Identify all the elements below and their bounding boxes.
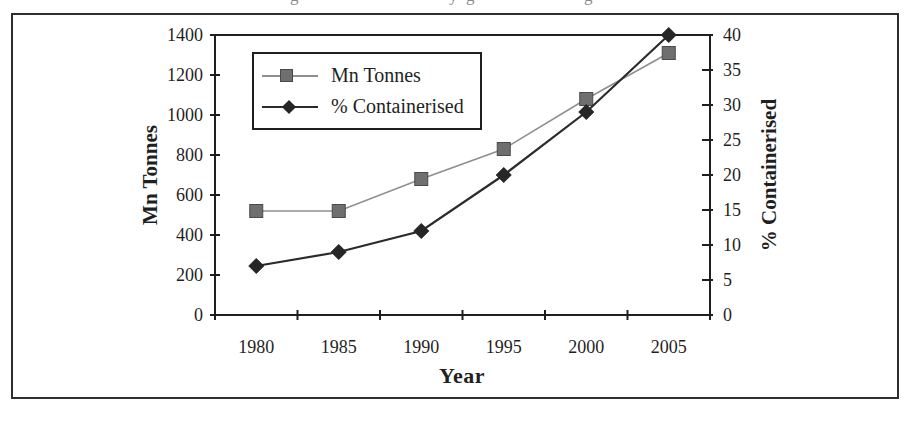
mn-tonnes-square-marker-icon (280, 69, 293, 82)
x-axis-tick-label: 1980 (238, 337, 274, 357)
scanned-figure: g y g g 02004006008001000120014000510152… (0, 0, 912, 421)
left-axis-tick-label: 1400 (167, 25, 203, 45)
x-axis-tick-label: 2005 (651, 337, 687, 357)
left-axis-tick-label: 1000 (167, 105, 203, 125)
legend: Mn Tonnes % Containerised (252, 52, 482, 130)
right-axis-tick-label: 10 (723, 235, 741, 255)
left-axis-tick-label: 800 (176, 145, 203, 165)
cropped-caption-strip: g y g g (0, 0, 912, 6)
data-point-square (250, 205, 263, 218)
legend-item-mn-tonnes: Mn Tonnes (262, 63, 480, 89)
containerised-diamond-marker-icon (282, 99, 296, 113)
data-point-square (497, 143, 510, 156)
left-axis-title: Mn Tonnes (137, 65, 163, 285)
right-axis-tick-label: 25 (723, 130, 741, 150)
mn-tonnes-swatch (262, 68, 318, 84)
data-point-square (415, 173, 428, 186)
left-axis-tick-label: 600 (176, 185, 203, 205)
chart-frame: 0200400600800100012001400051015202530354… (11, 13, 899, 399)
cropped-text-descender: g (466, 0, 475, 4)
right-axis-tick-label: 0 (723, 305, 732, 325)
containerised-swatch (262, 99, 318, 115)
right-axis-tick-label: 40 (723, 25, 741, 45)
left-axis-tick-label: 400 (176, 225, 203, 245)
left-axis: 0200400600800100012001400 (167, 25, 220, 325)
x-axis-tick-label: 1995 (486, 337, 522, 357)
x-axis-tick-label: 1985 (321, 337, 357, 357)
legend-label-mn-tonnes: Mn Tonnes (331, 64, 421, 87)
data-point-diamond (249, 259, 264, 274)
left-axis-tick-label: 1200 (167, 65, 203, 85)
right-axis-title: % Containerised (756, 65, 782, 285)
right-axis-tick-label: 30 (723, 95, 741, 115)
left-axis-tick-label: 200 (176, 265, 203, 285)
right-axis-tick-label: 15 (723, 200, 741, 220)
cropped-text-descender: y (449, 0, 458, 4)
right-axis-tick-label: 20 (723, 165, 741, 185)
x-axis: 198019851990199520002005 (215, 310, 710, 357)
data-point-square (580, 93, 593, 106)
cropped-text-descender: g (584, 0, 593, 4)
right-axis: 0510152025303540 (702, 25, 741, 325)
legend-item-containerised: % Containerised (262, 94, 480, 120)
data-point-diamond (414, 224, 429, 239)
x-axis-tick-label: 2000 (568, 337, 604, 357)
right-axis-tick-label: 35 (723, 60, 741, 80)
legend-label-containerised: % Containerised (331, 95, 464, 118)
right-axis-tick-label: 5 (723, 270, 732, 290)
x-axis-title: Year (402, 363, 522, 389)
left-axis-tick-label: 0 (194, 305, 203, 325)
data-point-diamond (331, 245, 346, 260)
data-point-square (332, 205, 345, 218)
cropped-text-descender: g (290, 0, 299, 4)
x-axis-tick-label: 1990 (403, 337, 439, 357)
data-point-square (662, 47, 675, 60)
